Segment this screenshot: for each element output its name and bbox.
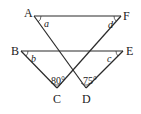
angle-arc-d [114, 16, 116, 21]
point-label-d: D [82, 92, 91, 106]
angle-arc-c [116, 51, 118, 56]
angle-label-75: 75° [83, 75, 97, 86]
angle-label-b: b [31, 53, 36, 64]
angle-label-a: a [44, 18, 49, 29]
angle-arc-b [26, 51, 28, 56]
angle-label-80: 80° [51, 75, 65, 86]
point-label-a: A [24, 6, 33, 20]
point-label-f: F [123, 9, 130, 23]
point-label-e: E [126, 44, 133, 58]
point-label-b: B [11, 44, 19, 58]
point-label-c: C [53, 92, 61, 106]
angle-label-c: c [107, 53, 112, 64]
geometry-diagram: A F B E C D a d b c 80° 75° [0, 0, 141, 114]
angle-arc-a [38, 16, 41, 22]
